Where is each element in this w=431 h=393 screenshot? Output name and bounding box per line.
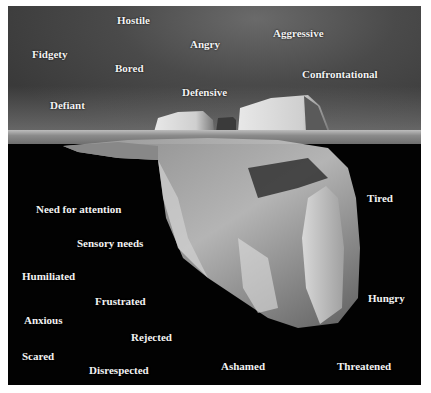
- iceberg-submerged: [8, 138, 421, 385]
- label-tired: Tired: [367, 192, 393, 204]
- label-ashamed: Ashamed: [221, 360, 265, 372]
- label-threatened: Threatened: [337, 360, 391, 372]
- label-angry: Angry: [190, 38, 220, 50]
- iceberg-image: Hostile Angry Aggressive Fidgety Bored C…: [8, 6, 421, 385]
- label-defensive: Defensive: [182, 86, 227, 98]
- label-hostile: Hostile: [117, 14, 150, 26]
- label-humiliated: Humiliated: [22, 270, 75, 282]
- label-bored: Bored: [115, 62, 144, 74]
- label-fidgety: Fidgety: [32, 48, 67, 60]
- label-aggressive: Aggressive: [273, 27, 324, 39]
- label-anxious: Anxious: [24, 314, 63, 326]
- label-defiant: Defiant: [50, 99, 85, 111]
- label-need-for-attention: Need for attention: [36, 203, 121, 215]
- label-confrontational: Confrontational: [302, 68, 378, 80]
- label-sensory-needs: Sensory needs: [77, 237, 143, 249]
- label-rejected: Rejected: [131, 331, 172, 343]
- label-scared: Scared: [22, 350, 54, 362]
- label-frustrated: Frustrated: [95, 295, 146, 307]
- label-disrespected: Disrespected: [89, 364, 149, 376]
- label-hungry: Hungry: [368, 292, 405, 304]
